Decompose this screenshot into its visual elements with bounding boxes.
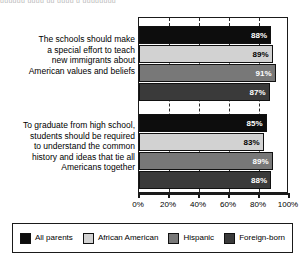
- plot-area: 88%89%91%87%85%83%89%88%: [138, 17, 288, 193]
- x-axis-tick: [168, 193, 170, 198]
- category-label-line: history and ideas that tie all: [7, 152, 135, 163]
- bar-value-label: 88%: [251, 176, 267, 185]
- category-label-line: American values and beliefs: [7, 66, 135, 77]
- x-axis-tick: [288, 193, 290, 198]
- category-label-line: Americans together: [7, 162, 135, 173]
- x-axis-tick: [258, 193, 260, 198]
- x-axis-line: [138, 193, 288, 195]
- bar-value-label: 89%: [252, 50, 268, 59]
- x-axis-tick-label: 40%: [190, 200, 206, 209]
- bar: 88%: [139, 171, 271, 189]
- bar-value-label: 87%: [249, 88, 265, 97]
- bar-groups: 88%89%91%87%85%83%89%88%: [139, 18, 287, 192]
- x-axis-tick-label: 20%: [160, 200, 176, 209]
- legend-swatch: [224, 233, 235, 244]
- cut-off-header-text-line: uuuuuu uuuu uu uuuu u uuuuuuuu: [0, 0, 170, 4]
- cut-off-header-text: uuuuuu uuuu uu uuuu u uuuuuuuu: [0, 0, 170, 4]
- category-label-line: The schools should make: [7, 34, 135, 45]
- x-axis-tick: [228, 193, 230, 198]
- category-label-line: a special effort to teach: [7, 45, 135, 56]
- category-label-line: new immigrants about: [7, 55, 135, 66]
- bar: 89%: [139, 152, 273, 170]
- legend-label: Foreign-born: [239, 233, 285, 243]
- category-label: The schools should makea special effort …: [7, 34, 135, 76]
- bar-chart: The schools should makea special effort …: [0, 8, 305, 257]
- bar-value-label: 91%: [255, 69, 271, 78]
- legend-swatch: [83, 233, 94, 244]
- legend-label: African American: [98, 233, 158, 243]
- bar-value-label: 83%: [243, 138, 259, 147]
- bar-group: 85%83%89%88%: [139, 114, 287, 190]
- x-axis-tick-label: 80%: [250, 200, 266, 209]
- legend-item: All parents: [20, 233, 73, 244]
- chart-legend: All parentsAfrican AmericanHispanicForei…: [12, 223, 293, 253]
- x-axis-tick-label: 60%: [220, 200, 236, 209]
- legend-swatch: [20, 233, 31, 244]
- bar-value-label: 88%: [251, 31, 267, 40]
- legend-label: All parents: [35, 233, 73, 243]
- x-axis-tick-label: 0%: [132, 200, 144, 209]
- bar-value-label: 85%: [246, 119, 262, 128]
- category-label-line: students should be required: [7, 131, 135, 142]
- legend-swatch: [168, 233, 179, 244]
- category-label-line: to understand the common: [7, 141, 135, 152]
- bar-group: 88%89%91%87%: [139, 26, 287, 102]
- category-label-line: To graduate from high school,: [7, 120, 135, 131]
- bar: 91%: [139, 64, 276, 82]
- legend-item: Foreign-born: [224, 233, 285, 244]
- bar: 88%: [139, 26, 271, 44]
- bar: 87%: [139, 83, 270, 101]
- category-label: To graduate from high school,students sh…: [7, 120, 135, 173]
- legend-item: Hispanic: [168, 233, 214, 244]
- legend-item: African American: [83, 233, 158, 244]
- x-axis-tick: [138, 193, 140, 198]
- x-axis-tick-label: 100%: [278, 200, 298, 209]
- x-axis-tick: [198, 193, 200, 198]
- bar: 85%: [139, 114, 267, 132]
- legend-label: Hispanic: [183, 233, 214, 243]
- x-axis: 0%20%40%60%80%100%: [138, 193, 288, 215]
- bar: 83%: [139, 133, 264, 151]
- bar: 89%: [139, 45, 273, 63]
- bar-value-label: 89%: [252, 157, 268, 166]
